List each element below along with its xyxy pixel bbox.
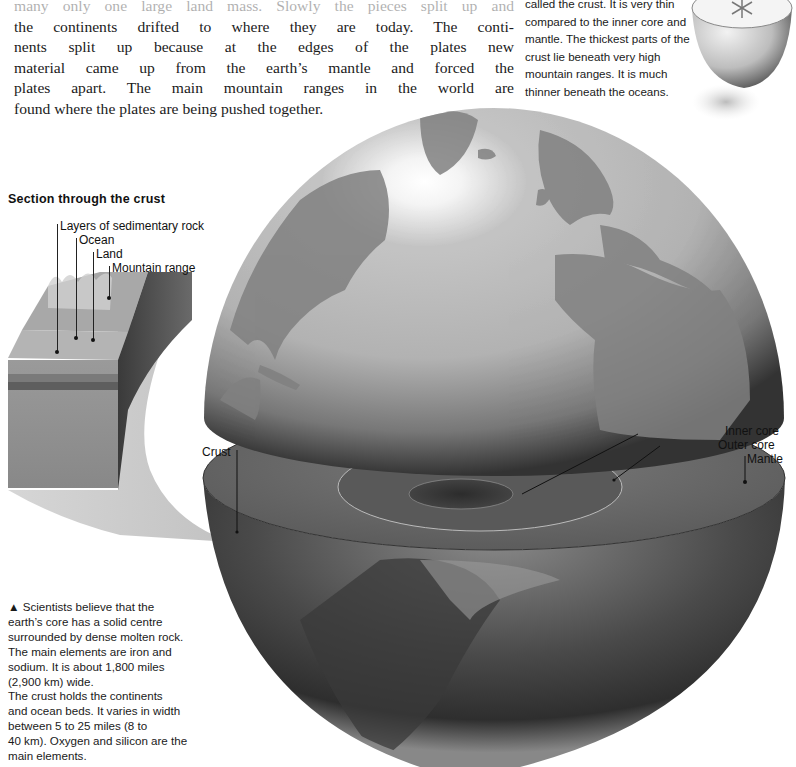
caption-line: 40 km). Oxygen and silicon are the [8, 734, 258, 749]
caption-line: (2,900 km) wide. [8, 675, 258, 690]
inner-core-disc [409, 479, 513, 509]
figure-caption: ▲ Scientists believe that the earth’s co… [8, 600, 258, 764]
caption-line: ▲ Scientists believe that the [8, 600, 258, 615]
label-inner-core: Inner core [725, 424, 779, 438]
caption-line: surrounded by dense molten rock. [8, 630, 258, 645]
caption-line: earth’s core has a solid centre [8, 615, 258, 630]
caption-line: The crust holds the continents [8, 689, 258, 704]
caption-line: The main elements are iron and [8, 645, 258, 660]
caption-line: sodium. It is about 1,800 miles [8, 660, 258, 675]
triangle-marker-icon: ▲ [8, 600, 19, 613]
label-mantle: Mantle [747, 452, 783, 466]
caption-line: and ocean beds. It varies in width [8, 704, 258, 719]
label-crust: Crust [202, 445, 231, 459]
label-outer-core: Outer core [718, 438, 775, 452]
caption-line: between 5 to 25 miles (8 to [8, 719, 258, 734]
caption-line: main elements. [8, 749, 258, 764]
caption-text: Scientists believe that the [23, 600, 154, 613]
